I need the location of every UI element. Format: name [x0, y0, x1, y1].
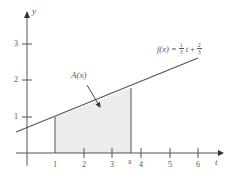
fraction-two-thirds: 2 3 [197, 42, 202, 55]
shaded-area [55, 88, 131, 153]
function-lhs: f(x) = [157, 44, 177, 54]
x-tick-label: 5 [168, 161, 172, 169]
x-axis-label: t [215, 158, 218, 167]
y-axis-label: y [32, 7, 36, 16]
x-tick-label: 3 [110, 161, 114, 169]
x-tick-label: 2 [82, 161, 86, 169]
y-tick-label: 1 [14, 113, 18, 121]
area-label: A(x) [71, 71, 87, 80]
function-plus: + [190, 44, 195, 54]
x-tick-label: 4 [139, 161, 143, 169]
y-tick-label: 3 [14, 40, 18, 48]
fraction-one-third: 1 3 [179, 42, 184, 55]
function-var: t [186, 44, 188, 54]
area-diagram [0, 0, 230, 179]
x-marker-label: x [128, 158, 132, 166]
x-tick-label: 1 [53, 161, 57, 169]
y-tick-label: 2 [14, 76, 18, 84]
y-axis-arrow-icon [24, 11, 30, 18]
x-axis-arrow-icon [218, 150, 224, 156]
function-label: f(x) = 1 3 t + 2 3 [157, 42, 202, 55]
x-tick-label: 6 [196, 161, 200, 169]
